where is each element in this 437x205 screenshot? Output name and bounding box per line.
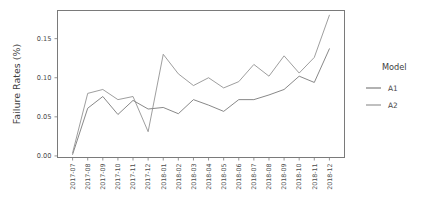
y-tick-label: 0.00 (37, 152, 52, 160)
x-tick-label: 2018-08 (265, 164, 272, 190)
x-tick-label: 2018-02 (175, 164, 182, 190)
x-tick-label: 2017-09 (99, 164, 106, 190)
x-tick-label: 2017-08 (84, 164, 91, 190)
failure-rates-line-chart: Failure Rates (%) 0.000.050.100.15 2017-… (0, 0, 437, 205)
x-tick-label: 2018-06 (235, 164, 242, 190)
series-group (73, 15, 330, 154)
y-tick-label: 0.05 (37, 113, 52, 121)
y-tick-label: 0.10 (37, 74, 52, 82)
series-line-a1 (73, 49, 330, 155)
x-tick-label: 2018-11 (311, 164, 318, 190)
x-tick-label: 2018-12 (326, 164, 333, 190)
legend-title: Model (382, 62, 407, 72)
x-tick-label: 2018-07 (250, 164, 257, 190)
x-tick-label: 2017-11 (129, 164, 136, 190)
plot-panel-border (58, 11, 345, 158)
y-tick-label: 0.15 (37, 35, 52, 43)
x-tick-label: 2018-03 (190, 164, 197, 190)
legend-label-a2: A2 (388, 101, 398, 110)
x-tick-label: 2018-09 (280, 164, 287, 190)
x-tick-label: 2018-10 (295, 164, 302, 190)
x-tick-label: 2018-05 (220, 164, 227, 190)
x-tick-label: 2017-10 (114, 164, 121, 190)
y-axis-title-text: Failure Rates (%) (11, 44, 22, 124)
y-tick-group: 0.000.050.100.15 (37, 35, 58, 160)
x-tick-label: 2018-01 (160, 164, 167, 190)
x-tick-group: 2017-072017-082017-092017-102017-112017-… (69, 158, 333, 190)
chart-canvas: Failure Rates (%) 0.000.050.100.15 2017-… (0, 0, 437, 205)
legend: Model A1A2 (366, 62, 407, 110)
x-tick-label: 2017-07 (69, 164, 76, 190)
legend-label-a1: A1 (388, 84, 398, 93)
x-tick-label: 2017-12 (144, 164, 151, 190)
y-axis-title: Failure Rates (%) (11, 44, 22, 124)
x-tick-label: 2018-04 (205, 164, 212, 190)
